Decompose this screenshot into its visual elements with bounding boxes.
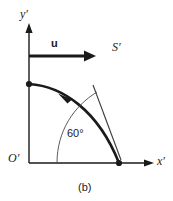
y-axis: [25, 23, 32, 163]
velocity-vector-arrow: [29, 51, 96, 62]
angle-label: 60°: [67, 128, 84, 139]
x-axis: [29, 159, 154, 166]
velocity-vector-arrowhead: [84, 51, 96, 62]
curve-start-dot: [26, 81, 32, 87]
figure-drawing: [0, 0, 173, 201]
reference-frame-label: S′: [112, 41, 121, 53]
curved-path: [29, 84, 119, 163]
figure-b-container: y′ x′ O′ u S′ 60° (b): [0, 0, 173, 201]
origin-label: O′: [8, 152, 19, 164]
y-axis-arrowhead: [25, 23, 32, 33]
velocity-vector-label: u: [51, 38, 58, 49]
curve-end-dot: [116, 160, 122, 166]
figure-caption: (b): [78, 182, 91, 193]
x-axis-label: x′: [157, 155, 165, 167]
y-axis-label: y′: [20, 8, 28, 20]
x-axis-arrowhead: [144, 159, 154, 166]
